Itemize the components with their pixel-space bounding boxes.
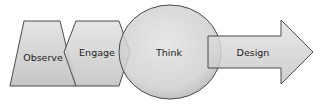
design-shape: Design: [208, 20, 313, 84]
design-label: Design: [237, 47, 270, 58]
think-label: Think: [155, 47, 182, 58]
process-diagram: Observe Engage Think Design: [0, 0, 331, 106]
think-shape: Think: [119, 5, 221, 99]
observe-label: Observe: [23, 52, 63, 63]
engage-label: Engage: [79, 47, 115, 58]
